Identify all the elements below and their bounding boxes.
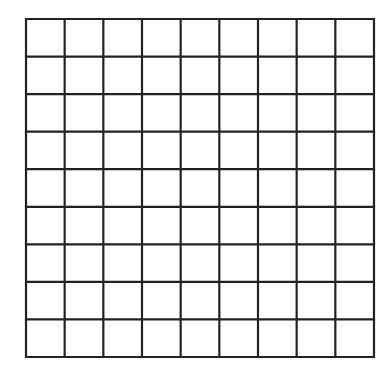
grid-diagram xyxy=(0,0,386,384)
grid-lines xyxy=(25,18,375,358)
